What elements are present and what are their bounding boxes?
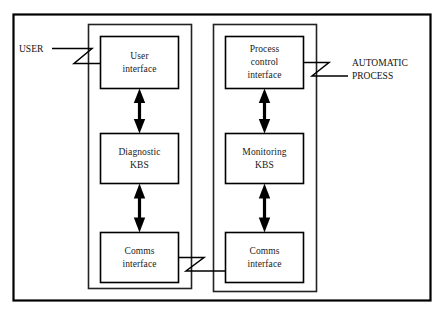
link-user-to-user-interface [52,49,101,64]
arrow-process-control-monitoring-kbs [259,89,270,134]
external-label-automatic-process: AUTOMATIC PROCESS [352,57,408,82]
node-box-comms-interface-right [226,233,304,283]
link-process-control-to-automatic-process [304,63,349,77]
arrow-diagnostic-kbs-comms-left [134,184,145,233]
link-comms-left-to-comms-right [179,258,226,272]
diagram-canvas: User interface Diagnostic KBS Comms inte… [0,0,442,315]
diagram-vector-layer [0,0,442,315]
node-box-monitoring-kbs [226,134,304,184]
external-label-user: USER [19,43,43,56]
node-box-user-interface [101,37,179,89]
node-box-comms-interface-left [101,233,179,283]
node-box-process-control-interface [226,37,304,89]
node-box-diagnostic-kbs [101,134,179,184]
arrow-monitoring-kbs-comms-right [259,184,270,233]
arrow-user-interface-diagnostic-kbs [134,89,145,134]
